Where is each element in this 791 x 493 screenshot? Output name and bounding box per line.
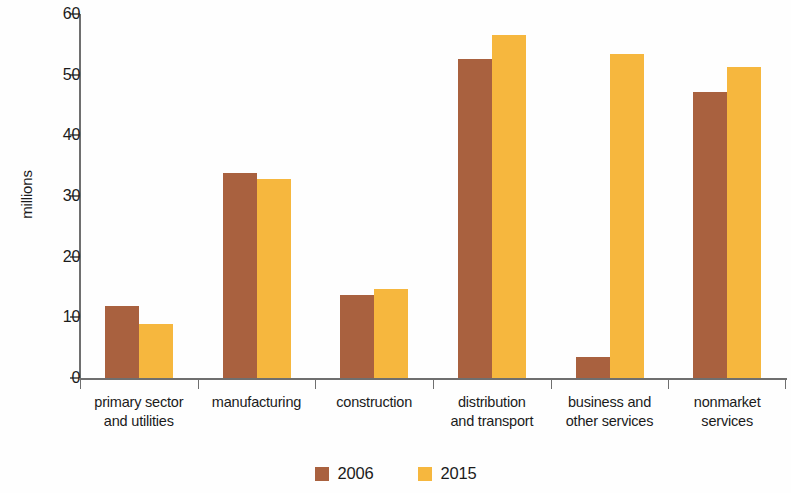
x-axis-separator (198, 378, 199, 389)
category-label-line: construction (315, 393, 433, 412)
category-label-line: business and (551, 393, 669, 412)
y-axis-tick-label: 60 (32, 5, 80, 23)
category-label-line: other services (551, 412, 669, 431)
category-label-1: manufacturing (198, 393, 316, 412)
category-label-2: construction (315, 393, 433, 412)
bar-2006-5 (693, 92, 727, 378)
category-label-line: primary sector (80, 393, 198, 412)
bar-2015-1 (257, 179, 291, 378)
category-label-line: and utilities (80, 412, 198, 431)
y-axis-tick-label: 30 (32, 187, 80, 205)
y-axis-tick-label: 50 (32, 66, 80, 84)
legend-label-2006: 2006 (338, 464, 374, 483)
bar-2015-3 (492, 35, 526, 378)
x-axis-separator (80, 378, 81, 389)
bar-2006-3 (458, 59, 492, 378)
y-axis-tick-label: 20 (32, 248, 80, 266)
legend-item-2015: 2015 (418, 464, 477, 483)
bar-2006-4 (576, 357, 610, 378)
category-label-line: manufacturing (198, 393, 316, 412)
category-label-line: and transport (433, 412, 551, 431)
category-label-5: nonmarketservices (668, 393, 786, 431)
legend-swatch-2015 (418, 467, 432, 481)
bar-2015-2 (374, 289, 408, 378)
category-label-4: business andother services (551, 393, 669, 431)
category-label-0: primary sectorand utilities (80, 393, 198, 431)
x-axis-separator (785, 378, 786, 389)
bar-2006-1 (223, 173, 257, 378)
category-label-line: services (668, 412, 786, 431)
y-axis-tick-label: 0 (32, 369, 80, 387)
x-axis-separator (551, 378, 552, 389)
bar-chart: millions 0102030405060 primary sectorand… (0, 0, 791, 493)
y-axis-tick-label: 40 (32, 126, 80, 144)
legend-swatch-2006 (315, 467, 329, 481)
x-axis-separator (433, 378, 434, 389)
bar-2006-2 (340, 295, 374, 378)
chart-legend: 20062015 (0, 464, 791, 483)
category-label-line: nonmarket (668, 393, 786, 412)
x-axis-separator (668, 378, 669, 389)
category-label-3: distributionand transport (433, 393, 551, 431)
bar-2015-0 (139, 324, 173, 378)
plot-area (80, 14, 786, 378)
legend-item-2006: 2006 (315, 464, 374, 483)
category-label-line: distribution (433, 393, 551, 412)
bar-2006-0 (105, 306, 139, 378)
legend-label-2015: 2015 (441, 464, 477, 483)
bar-2015-5 (727, 67, 761, 378)
y-axis-tick-label: 10 (32, 308, 80, 326)
x-axis-separator (315, 378, 316, 389)
bar-2015-4 (610, 54, 644, 378)
